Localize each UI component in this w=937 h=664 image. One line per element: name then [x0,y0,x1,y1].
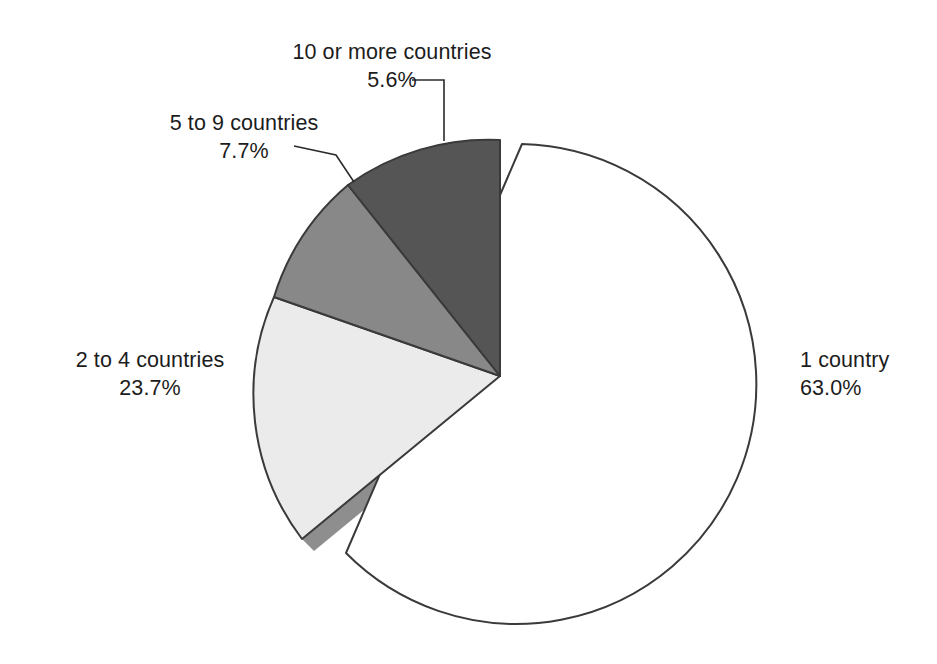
slice-label-1-country: 1 country 63.0% [800,346,937,403]
slice-label-2-to-4-name: 2 to 4 countries [32,346,268,374]
slice-label-5-to-9-name: 5 to 9 countries [126,109,362,137]
pie-chart-graphic [0,0,937,664]
slice-label-5-to-9-value: 7.7% [126,137,362,165]
slice-label-5-to-9: 5 to 9 countries 7.7% [126,109,362,166]
slice-label-2-to-4: 2 to 4 countries 23.7% [32,346,268,403]
slice-label-1-country-name: 1 country [800,346,937,374]
slice-label-10-or-more-name: 10 or more countries [258,38,526,66]
slice-label-2-to-4-value: 23.7% [32,374,268,402]
slice-label-1-country-value: 63.0% [800,374,937,402]
slice-label-10-or-more-value: 5.6% [258,66,526,94]
pie-chart: 10 or more countries 5.6% 5 to 9 countri… [0,0,937,664]
slice-label-10-or-more: 10 or more countries 5.6% [258,38,526,95]
